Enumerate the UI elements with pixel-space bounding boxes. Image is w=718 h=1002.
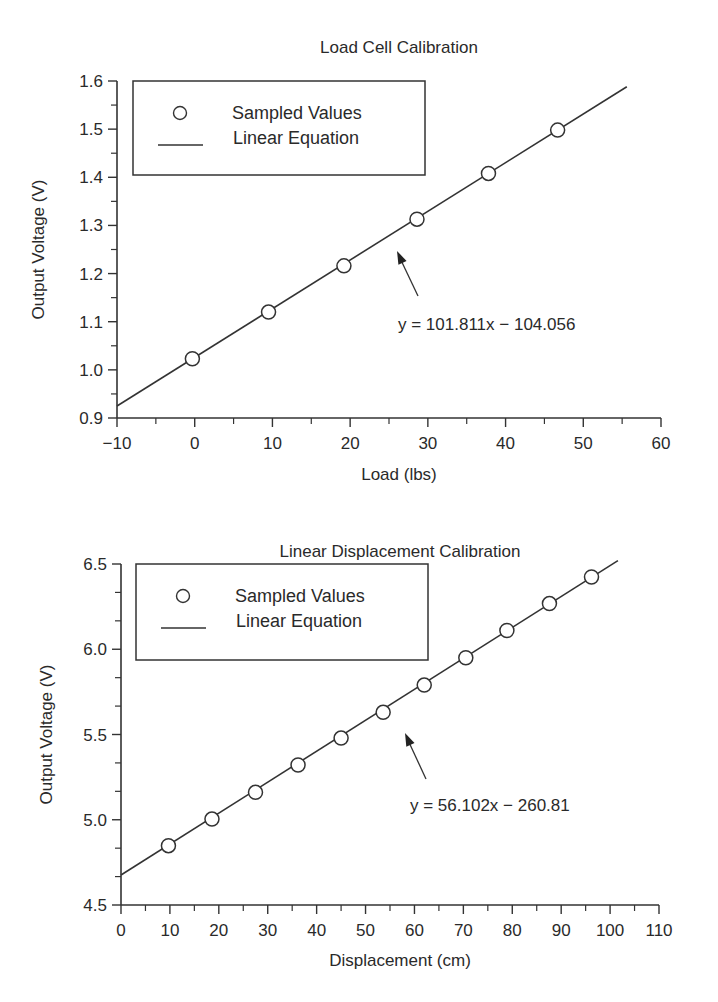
sampled-value-marker: [500, 623, 514, 637]
x-tick-label: 110: [645, 921, 672, 940]
arrow-head-icon: [405, 733, 414, 747]
x-tick-label: 40: [496, 434, 515, 453]
y-tick-label: 1.5: [79, 120, 103, 139]
x-axis-label: Load (lbs): [361, 465, 437, 484]
y-tick-label: 1.3: [79, 216, 103, 235]
arrow-head-icon: [397, 251, 407, 265]
sampled-value-marker: [185, 352, 199, 366]
y-tick-label: 4.5: [83, 896, 107, 915]
x-tick-label: 10: [263, 434, 282, 453]
y-axis-label: Output Voltage (V): [29, 180, 48, 320]
x-tick-label: −10: [103, 434, 132, 453]
sampled-value-marker: [337, 259, 351, 273]
sampled-value-marker: [334, 731, 348, 745]
chart-title: Load Cell Calibration: [320, 38, 478, 57]
y-tick-label: 1.1: [79, 313, 103, 332]
x-tick-label: 50: [356, 921, 375, 940]
sampled-value-marker: [481, 166, 495, 180]
legend-label-sampled: Sampled Values: [232, 103, 362, 123]
x-tick-label: 80: [503, 921, 522, 940]
x-tick-label: 0: [190, 434, 199, 453]
x-tick-label: 90: [552, 921, 571, 940]
legend-label-sampled: Sampled Values: [235, 586, 365, 606]
sampled-value-marker: [205, 812, 219, 826]
y-tick-label: 1.4: [79, 168, 103, 187]
chart-panel-2: Linear Displacement Calibration010203040…: [37, 542, 673, 970]
x-tick-label: 70: [454, 921, 473, 940]
legend-circle-icon: [177, 590, 190, 603]
sampled-value-marker: [291, 758, 305, 772]
x-tick-label: 100: [596, 921, 624, 940]
sampled-value-marker: [249, 785, 263, 799]
x-tick-label: 10: [160, 921, 179, 940]
sampled-value-marker: [262, 305, 276, 319]
x-tick-label: 0: [116, 921, 125, 940]
legend: Sampled ValuesLinear Equation: [136, 564, 428, 660]
y-tick-label: 5.0: [83, 811, 107, 830]
equation-annotation: y = 101.811x − 104.056: [398, 315, 575, 334]
y-tick-label: 1.2: [79, 265, 103, 284]
sampled-value-marker: [410, 212, 424, 226]
sampled-value-marker: [417, 678, 431, 692]
equation-annotation: y = 56.102x − 260.81: [410, 796, 570, 815]
x-tick-label: 60: [652, 434, 671, 453]
legend-circle-icon: [174, 107, 187, 120]
x-tick-label: 50: [574, 434, 593, 453]
y-tick-label: 1.6: [79, 72, 103, 91]
legend-label-linear: Linear Equation: [233, 128, 359, 148]
x-tick-label: 30: [258, 921, 277, 940]
x-tick-label: 20: [341, 434, 360, 453]
sampled-value-marker: [542, 597, 556, 611]
x-tick-label: 60: [405, 921, 424, 940]
sampled-value-marker: [551, 123, 565, 137]
y-tick-label: 6.5: [83, 555, 107, 574]
calibration-figure: Load Cell Calibration−1001020304050600.9…: [0, 0, 718, 1002]
x-axis-label: Displacement (cm): [329, 951, 471, 970]
y-axis-label: Output Voltage (V): [37, 665, 56, 805]
legend: Sampled ValuesLinear Equation: [133, 81, 425, 175]
sampled-value-marker: [161, 839, 175, 853]
legend-label-linear: Linear Equation: [236, 611, 362, 631]
x-tick-label: 40: [307, 921, 326, 940]
x-tick-label: 20: [209, 921, 228, 940]
chart-title: Linear Displacement Calibration: [280, 542, 521, 561]
sampled-value-marker: [459, 651, 473, 665]
sampled-value-marker: [376, 705, 390, 719]
x-tick-label: 30: [418, 434, 437, 453]
y-tick-label: 1.0: [79, 361, 103, 380]
y-tick-label: 6.0: [83, 640, 107, 659]
sampled-value-marker: [585, 570, 599, 584]
y-tick-label: 5.5: [83, 726, 107, 745]
chart-panel-1: Load Cell Calibration−1001020304050600.9…: [29, 38, 670, 484]
y-tick-label: 0.9: [79, 409, 103, 428]
